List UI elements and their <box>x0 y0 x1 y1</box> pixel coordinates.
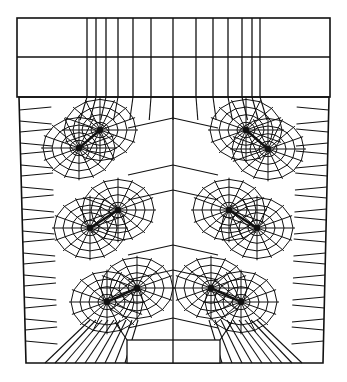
top-block <box>17 18 330 97</box>
mesh-diagram <box>0 0 347 382</box>
mesh-svg <box>0 0 347 382</box>
